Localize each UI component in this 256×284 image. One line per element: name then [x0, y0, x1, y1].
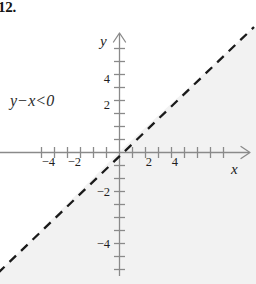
x-tick-label-4: 4	[166, 155, 178, 170]
coordinate-plane	[0, 0, 256, 284]
y-tick-label-2: 2	[96, 98, 110, 113]
y-axis-label: y	[100, 33, 107, 50]
x-tick-label-neg2: −2	[55, 155, 81, 170]
y-tick-label-neg4: −4	[88, 237, 110, 252]
x-tick-label-neg4: −4	[29, 155, 55, 170]
y-tick-label-neg2: −2	[88, 185, 110, 200]
y-tick-label-4: 4	[96, 72, 110, 87]
x-axis-label: x	[231, 161, 238, 178]
x-tick-label-2: 2	[140, 155, 152, 170]
figure-container: 12. y−x<0	[0, 0, 256, 284]
